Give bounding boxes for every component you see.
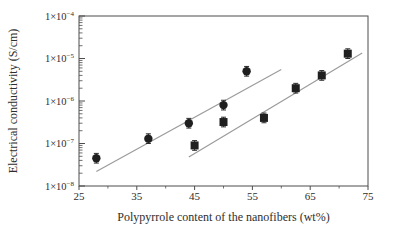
circle-data-marker xyxy=(144,134,152,142)
square-data-marker xyxy=(260,114,268,122)
x-tick-label: 65 xyxy=(305,190,317,202)
conductivity-figure: 1×10−41×10−51×10−61×10−71×10−82535455565… xyxy=(0,0,393,232)
y-tick-label: 1×10−5 xyxy=(45,52,75,64)
square-data-marker xyxy=(344,50,352,58)
x-tick-label: 25 xyxy=(74,190,86,202)
x-tick-label: 55 xyxy=(247,190,259,202)
circle-data-marker xyxy=(242,67,250,75)
square-data-marker xyxy=(292,84,300,92)
y-tick-label: 1×10−4 xyxy=(45,10,75,22)
circle-data-marker xyxy=(185,119,193,127)
y-axis-label: Electrical conductivity (S/cm) xyxy=(6,29,20,174)
square-data-marker xyxy=(318,71,326,79)
square-data-marker xyxy=(191,141,199,149)
square-series-fit-line xyxy=(189,53,362,157)
y-tick-label: 1×10−6 xyxy=(45,95,75,107)
conductivity-scatter-chart: 1×10−41×10−51×10−61×10−71×10−82535455565… xyxy=(0,0,393,232)
x-tick-label: 75 xyxy=(363,190,375,202)
y-tick-label: 1×10−8 xyxy=(45,180,75,192)
x-axis-label: Polypyrrole content of the nanofibers (w… xyxy=(117,210,329,224)
circle-data-marker xyxy=(92,154,100,162)
x-tick-label: 35 xyxy=(131,190,143,202)
y-tick-label: 1×10−7 xyxy=(45,137,75,149)
x-tick-label: 45 xyxy=(189,190,201,202)
square-data-marker xyxy=(220,118,228,126)
circle-data-marker xyxy=(219,101,227,109)
